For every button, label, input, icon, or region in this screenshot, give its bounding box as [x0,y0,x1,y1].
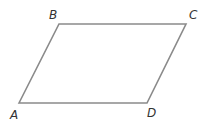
vertex-label-b: B [49,8,57,22]
vertex-label-d: D [147,106,156,120]
vertex-label-a: A [9,108,18,122]
vertex-label-c: C [189,8,198,22]
parallelogram-diagram: A B C D [0,0,205,128]
parallelogram-abcd [19,24,186,103]
